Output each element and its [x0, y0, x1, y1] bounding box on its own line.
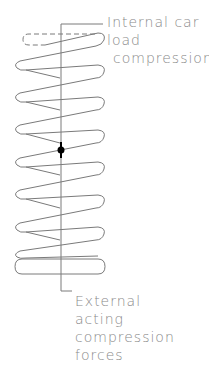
center-leader-line	[61, 24, 103, 291]
external-forces-label-line4: forces	[75, 346, 175, 364]
internal-load-label-line2: load	[107, 31, 209, 49]
force-point-marker	[58, 142, 65, 158]
internal-load-label-line1: Internal car	[107, 13, 209, 31]
external-forces-label-line1: External	[75, 292, 175, 310]
internal-load-label: Internal car load compression	[107, 13, 209, 67]
external-forces-label-line2: acting	[75, 310, 175, 328]
external-forces-label: External acting compression forces	[75, 292, 175, 364]
force-point-dot	[58, 147, 65, 154]
internal-load-label-line3: compression	[107, 49, 209, 67]
external-forces-label-line3: compression	[75, 328, 175, 346]
